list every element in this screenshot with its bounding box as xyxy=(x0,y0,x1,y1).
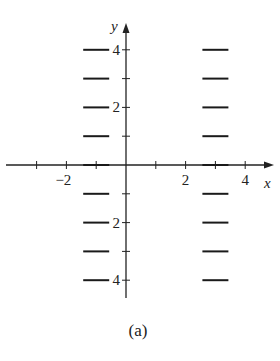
slope-field-diagram: −2244224 x y (a) xyxy=(0,0,280,361)
y-axis-arrow-icon xyxy=(123,23,130,33)
y-tick-label: 2 xyxy=(113,215,121,231)
x-tick-label: 2 xyxy=(182,172,190,188)
y-tick-label: 2 xyxy=(113,99,121,115)
x-axis-label: x xyxy=(263,175,271,191)
x-tick-label: −2 xyxy=(55,172,71,188)
figure-caption: (a) xyxy=(129,321,148,340)
y-axis xyxy=(123,23,130,298)
x-tick-label: 4 xyxy=(241,172,249,188)
x-axis-arrow-icon xyxy=(264,162,274,169)
y-axis-label: y xyxy=(109,18,118,34)
y-tick-label: 4 xyxy=(113,42,121,58)
y-tick-label: 4 xyxy=(113,272,121,288)
x-axis xyxy=(6,162,274,169)
